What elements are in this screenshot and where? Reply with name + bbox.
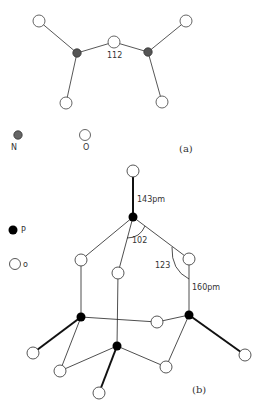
legend-oxygen-label: O <box>83 143 89 152</box>
bond <box>166 315 189 367</box>
bond <box>117 273 118 346</box>
legend-nitrogen-label: N <box>11 143 17 152</box>
bond <box>118 217 133 273</box>
oxygen-atom <box>160 361 172 373</box>
caption-b: (b) <box>192 384 206 395</box>
caption-a: (a) <box>179 143 193 154</box>
angle-label-pop: 123 <box>155 261 170 270</box>
molecule-diagram: 112 N O (a) <box>0 0 262 407</box>
phosphorus-atom <box>77 313 86 322</box>
oxygen-atom <box>60 97 72 109</box>
oxygen-atom <box>156 96 168 108</box>
oxygen-atom <box>93 387 105 399</box>
legend-nitrogen-icon <box>14 131 22 139</box>
bond <box>81 317 157 322</box>
bond-length-bridge-label: 160pm <box>192 283 220 292</box>
legend-phosphorus-icon <box>9 226 18 235</box>
oxygen-atom <box>108 36 120 48</box>
legend-oxygen-label: o <box>23 260 28 269</box>
legend-oxygen-icon <box>10 259 21 270</box>
oxygen-atom <box>127 165 139 177</box>
oxygen-atom <box>33 15 45 27</box>
legend-oxygen-icon <box>80 130 91 141</box>
panel-a-atoms <box>33 15 192 109</box>
bond <box>66 53 77 103</box>
phosphorus-atom <box>129 213 138 222</box>
oxygen-atom <box>54 365 66 377</box>
nitrogen-atom <box>144 48 152 56</box>
oxygen-atom <box>151 316 163 328</box>
angle-label-opo: 102 <box>132 236 147 245</box>
nitrogen-atom <box>73 49 81 57</box>
panel-a <box>39 21 186 103</box>
bond-length-terminal-label: 143pm <box>137 195 165 204</box>
phosphorus-atom <box>185 311 194 320</box>
phosphorus-atom <box>113 342 122 351</box>
terminal-bond <box>189 315 245 355</box>
oxygen-atom <box>239 349 251 361</box>
oxygen-atom <box>112 267 124 279</box>
oxygen-atom <box>183 253 195 265</box>
oxygen-atom <box>75 254 87 266</box>
bond <box>117 346 166 367</box>
panel-b-bonds <box>60 217 189 371</box>
angle-label-onoo: 112 <box>107 51 122 60</box>
bond <box>81 217 133 260</box>
bond <box>148 52 162 102</box>
oxygen-atom <box>180 15 192 27</box>
legend-phosphorus-label: P <box>21 226 26 235</box>
bond <box>39 21 77 53</box>
oxygen-atom <box>27 347 39 359</box>
bond <box>148 21 186 52</box>
